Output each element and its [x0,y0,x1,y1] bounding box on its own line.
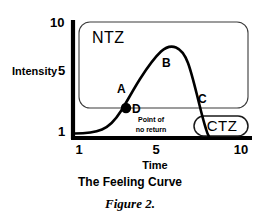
y-tick-10: 10 [50,16,64,29]
x-tick-10: 10 [234,143,248,156]
x-axis-label: Time [142,160,167,171]
no-return-annotation-line2: no return [136,126,167,135]
ntz-zone-label: NTZ [92,30,125,46]
no-return-annotation-line1: Point of [138,116,164,125]
figure-caption: Figure 2. [105,197,155,210]
y-tick-1: 1 [58,125,65,138]
point-label-c: C [198,93,207,105]
point-label-a: A [117,83,126,95]
point-label-d: D [132,103,141,115]
ctz-zone-label: CTZ [207,118,238,133]
figure-container: 10 Intensity 5 1 1 5 10 Time NTZ CTZ A B… [0,0,260,217]
chart-title: The Feeling Curve [78,176,182,188]
y-axis-label: Intensity [12,66,57,77]
x-tick-1: 1 [75,143,82,156]
x-tick-5: 5 [152,143,159,156]
point-of-no-return-dot [121,103,131,113]
y-tick-5: 5 [58,64,65,77]
point-label-b: B [162,57,171,69]
